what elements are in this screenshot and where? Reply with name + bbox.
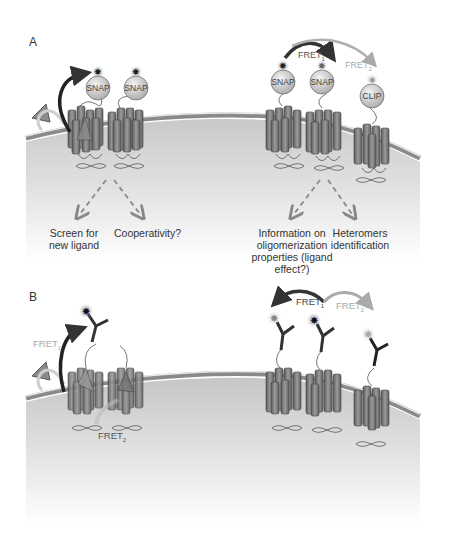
tag-label-snap: SNAP (307, 77, 337, 87)
caption-screen-new-ligand: Screen for new ligand (48, 227, 100, 251)
tag-label-snap: SNAP (121, 83, 151, 93)
panel-b: ✸ (0, 268, 467, 537)
antibody-icon (370, 338, 388, 366)
antibody-icon (277, 322, 294, 350)
fluorophore-star-icon: ✸ (82, 306, 90, 317)
fluorophore-star-icon: ✸ (310, 315, 318, 326)
tag-label-clip: CLIP (357, 91, 387, 101)
fret2-label: FRET2 (336, 300, 364, 313)
fluorophore-star-icon: ✸ (318, 61, 326, 71)
fret2-label: FRET2 (98, 430, 126, 443)
tag-label-snap: SNAP (83, 83, 113, 93)
panel-a: ✸ ✸ (0, 0, 467, 268)
fret1-label: FRET1 (33, 338, 61, 351)
fluorophore-star-icon: ✸ (279, 61, 287, 71)
antibody-icon (88, 314, 108, 342)
fluorophore-star-icon: ✸ (270, 313, 278, 324)
fret1-label: FRET1 (298, 50, 325, 62)
antibody-icon (317, 324, 334, 352)
caption-cooperativity: Cooperativity? (114, 227, 180, 239)
fluorophore-star-icon: ✸ (369, 76, 376, 85)
tag-label-snap: SNAP (268, 77, 298, 87)
fluorophore-star-icon: ✸ (94, 67, 102, 77)
panel-b-illustration: ✸ (0, 268, 467, 537)
fret2-label: FRET2 (345, 60, 372, 72)
fret1-label: FRET1 (296, 296, 324, 309)
fluorophore-star-icon: ✸ (132, 67, 140, 77)
panel-label-a: A (29, 35, 37, 49)
fluorophore-star-icon: ✸ (364, 329, 372, 340)
caption-heteromers-identification: Heteromers identification (330, 227, 390, 251)
panel-label-b: B (29, 290, 37, 304)
